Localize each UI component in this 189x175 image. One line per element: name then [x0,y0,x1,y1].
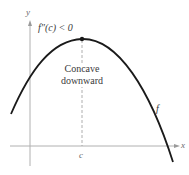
second-derivative-condition-label: f″(c) < 0 [38,23,73,33]
curve-f [11,39,173,162]
concave-label-line2: downward [60,75,104,87]
maximum-point-dot [80,37,84,41]
concave-label-line1: Concave [60,63,104,75]
x-axis-arrow-icon [174,144,180,148]
y-axis-arrow-icon [28,20,32,26]
diagram-canvas [0,0,189,175]
curve-f-label: f [156,104,159,114]
x-axis-label: x [181,141,185,150]
concavity-diagram: y x c f″(c) < 0 Concave downward f [0,0,189,175]
concave-downward-label: Concave downward [60,63,104,87]
point-c-label: c [79,151,83,160]
y-axis-label: y [26,8,30,17]
